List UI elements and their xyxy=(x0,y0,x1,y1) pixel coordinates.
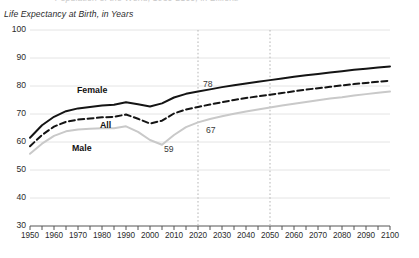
x-axis-tick-label: 2070 xyxy=(309,231,327,240)
data-label-78: 78 xyxy=(203,79,213,89)
x-axis-tick-label: 2050 xyxy=(261,231,279,240)
x-axis-tick-label: 1970 xyxy=(69,231,87,240)
chart-axis-title: Life Expectancy at Birth, in Years xyxy=(4,9,133,19)
x-axis-tick-label: 1960 xyxy=(45,231,63,240)
x-axis-tick-label: 2090 xyxy=(357,231,375,240)
y-axis-labels: 10090807060504030 xyxy=(0,30,26,226)
x-axis-tick-label: 2080 xyxy=(333,231,351,240)
y-axis-tick-label: 50 xyxy=(4,164,26,174)
y-axis-tick-label: 30 xyxy=(4,220,26,230)
x-axis-tick-label: 1950 xyxy=(21,231,39,240)
data-label-59: 59 xyxy=(164,144,174,154)
x-axis-tick-label: 1990 xyxy=(117,231,135,240)
x-axis-tick-label: 2040 xyxy=(237,231,255,240)
y-axis-tick-label: 40 xyxy=(4,192,26,202)
x-axis-tick-label: 1980 xyxy=(93,231,111,240)
y-axis-tick-label: 80 xyxy=(4,80,26,90)
y-axis-tick-label: 70 xyxy=(4,108,26,118)
x-axis-labels: 1950196019701980199020002010202020302040… xyxy=(0,231,419,247)
data-label-67: 67 xyxy=(206,125,216,135)
x-axis-tick-label: 2030 xyxy=(213,231,231,240)
clipped-figure-title: Population of the World, 1950-2100, in B… xyxy=(55,0,239,3)
x-axis-tick-label: 2020 xyxy=(189,231,207,240)
series-label-male: Male xyxy=(72,143,92,153)
x-axis-tick-label: 2010 xyxy=(165,231,183,240)
life-expectancy-chart: Population of the World, 1950-2100, in B… xyxy=(0,0,419,258)
x-axis-tick-label: 2000 xyxy=(141,231,159,240)
x-axis-tick-label: 2100 xyxy=(381,231,399,240)
y-axis-tick-label: 60 xyxy=(4,136,26,146)
y-axis-tick-label: 100 xyxy=(4,24,26,34)
series-label-all: All xyxy=(100,120,111,130)
x-axis-tick-label: 2060 xyxy=(285,231,303,240)
y-axis-tick-label: 90 xyxy=(4,52,26,62)
series-label-female: Female xyxy=(77,85,107,95)
